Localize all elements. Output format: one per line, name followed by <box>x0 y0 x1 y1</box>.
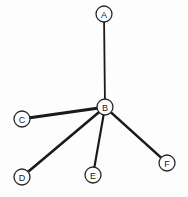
node-label-d: D <box>19 173 26 183</box>
node-label-a: A <box>101 10 107 20</box>
node-d: D <box>14 169 30 185</box>
node-label-f: F <box>164 159 170 169</box>
node-c: C <box>14 111 30 127</box>
edge-b-a <box>104 22 105 99</box>
nodes-layer: ABCDEF <box>14 6 175 185</box>
node-label-c: C <box>19 115 26 125</box>
node-e: E <box>85 167 101 183</box>
graph-diagram: ABCDEF <box>0 0 188 197</box>
edge-b-f <box>111 112 161 157</box>
edge-b-d <box>28 112 99 172</box>
edges-layer <box>28 22 161 172</box>
graph-canvas: ABCDEF <box>0 0 188 197</box>
edge-b-c <box>30 108 97 118</box>
node-b: B <box>97 99 113 115</box>
node-f: F <box>159 155 175 171</box>
node-a: A <box>96 6 112 22</box>
node-label-e: E <box>90 171 96 181</box>
edge-b-e <box>94 115 103 167</box>
node-label-b: B <box>102 103 108 113</box>
